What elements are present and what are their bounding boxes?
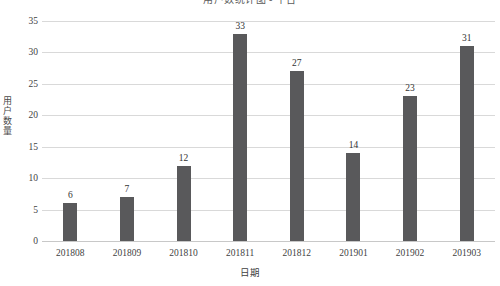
- y-axis-tick-label: 10: [8, 173, 38, 183]
- bar-group: 12: [155, 21, 212, 241]
- bar-value-label: 7: [125, 184, 130, 195]
- y-axis-tick-label: 15: [8, 142, 38, 152]
- y-axis-tick-label: 30: [8, 47, 38, 57]
- plot-area: 67123327142331: [42, 21, 495, 241]
- y-axis-tick-label: 25: [8, 79, 38, 89]
- bar-group: 7: [99, 21, 156, 241]
- bar-value-label: 31: [462, 33, 472, 44]
- x-axis-tick-label: 201903: [452, 248, 481, 259]
- y-axis-tick-label: 35: [8, 16, 38, 26]
- bar[interactable]: [403, 96, 417, 241]
- x-axis-tick-label: 201901: [339, 248, 368, 259]
- bar-group: 27: [269, 21, 326, 241]
- y-axis-title-char-1: 用: [1, 96, 14, 106]
- bar-chart: 用户数统计图 - 平台 用 户 数 量 67123327142331 日期 05…: [0, 0, 500, 286]
- bar[interactable]: [346, 153, 360, 241]
- chart-title: 用户数统计图 - 平台: [0, 0, 500, 6]
- bar[interactable]: [63, 203, 77, 241]
- bar-group: 33: [212, 21, 269, 241]
- x-axis-title: 日期: [0, 268, 500, 279]
- bar-group: 31: [438, 21, 495, 241]
- x-axis-tick-label: 201812: [283, 248, 312, 259]
- x-axis-tick-label: 201902: [396, 248, 425, 259]
- x-axis-tick-label: 201811: [226, 248, 254, 259]
- bar-group: 14: [325, 21, 382, 241]
- bar[interactable]: [120, 197, 134, 241]
- x-axis-tick-label: 201809: [113, 248, 142, 259]
- y-axis-tick-label: 5: [8, 205, 38, 215]
- y-axis-tick-label: 0: [8, 236, 38, 246]
- bar-value-label: 27: [292, 58, 302, 69]
- y-axis-tick-label: 20: [8, 110, 38, 120]
- x-axis-tick-label: 201810: [169, 248, 198, 259]
- gridline: [42, 241, 495, 242]
- bar[interactable]: [460, 46, 474, 241]
- bar-value-label: 23: [405, 83, 415, 94]
- bar-value-label: 6: [68, 190, 73, 201]
- bar-group: 23: [382, 21, 439, 241]
- bar[interactable]: [290, 71, 304, 241]
- y-axis-title-char-4: 量: [1, 126, 14, 136]
- x-axis-tick-label: 201808: [56, 248, 85, 259]
- bar-value-label: 14: [349, 140, 359, 151]
- bar-value-label: 33: [235, 21, 245, 32]
- bar[interactable]: [177, 166, 191, 241]
- bar[interactable]: [233, 34, 247, 241]
- bar-value-label: 12: [179, 153, 189, 164]
- bar-group: 6: [42, 21, 99, 241]
